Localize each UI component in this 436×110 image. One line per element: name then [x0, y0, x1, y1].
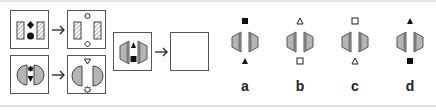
- example-2-result-box: ✸: [67, 55, 106, 94]
- example-1-result-box: [67, 10, 106, 49]
- option-d-figure-icon: [390, 0, 430, 80]
- half-circles-icon: ✸: [11, 56, 50, 95]
- question-source-box: [113, 32, 152, 71]
- option-b-figure-icon: [280, 0, 320, 80]
- svg-text:✸: ✸: [84, 85, 92, 95]
- svg-text:✸: ✸: [27, 64, 35, 74]
- trapezoids-icon: [114, 33, 153, 72]
- answer-blank-box: [170, 32, 209, 71]
- bottom-divider: [0, 105, 436, 107]
- option-label: b: [290, 78, 310, 94]
- half-circles-icon: ✸: [68, 56, 107, 95]
- option-label: c: [345, 78, 365, 94]
- hatched-rectangles-icon: [68, 11, 107, 50]
- option-label: d: [400, 78, 420, 94]
- arrow-right-icon: [52, 25, 66, 35]
- option-label: a: [235, 78, 255, 94]
- option-c-figure-icon: [335, 0, 375, 80]
- arrow-right-icon: [155, 47, 169, 57]
- example-1-source-box: [10, 10, 49, 49]
- arrow-right-icon: [52, 70, 66, 80]
- example-2-source-box: ✸: [10, 55, 49, 94]
- option-a-figure-icon: [225, 0, 265, 80]
- hatched-rectangles-icon: [11, 11, 50, 50]
